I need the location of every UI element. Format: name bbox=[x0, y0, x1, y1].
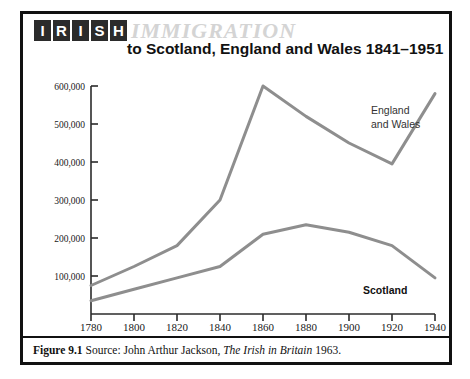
caption-year: 1963. bbox=[312, 344, 341, 356]
x-axis-ticks bbox=[91, 314, 435, 321]
plot-area: 600,000 500,000 400,000 300,000 200,000 … bbox=[23, 66, 449, 332]
caption-source-prefix: Source: John Arthur Jackson, bbox=[83, 344, 224, 356]
y-tick-label: 600,000 bbox=[54, 82, 85, 92]
line-chart-svg: 600,000 500,000 400,000 300,000 200,000 … bbox=[23, 66, 449, 332]
y-tick-label: 200,000 bbox=[54, 234, 85, 244]
caption-bar: Figure 9.1 Source: John Arthur Jackson, … bbox=[23, 338, 449, 362]
caption-figure-number: Figure 9.1 bbox=[33, 344, 83, 356]
figure-caption: Figure 9.1 Source: John Arthur Jackson, … bbox=[23, 344, 341, 356]
series-label-line: England bbox=[371, 104, 410, 116]
x-tick-label: 1780 bbox=[80, 321, 103, 332]
chart-subtitle: to Scotland, England and Wales 1841–1951 bbox=[127, 40, 443, 58]
series-annotation-england-and-wales: England and Wales bbox=[371, 104, 420, 130]
x-tick-label: 1800 bbox=[123, 321, 146, 332]
x-axis-labels: 1780 1800 1820 1840 1860 1880 1900 1920 … bbox=[80, 321, 447, 332]
y-tick-label: 300,000 bbox=[54, 196, 85, 206]
x-tick-label: 1880 bbox=[295, 321, 318, 332]
series-annotation-scotland: Scotland bbox=[363, 284, 407, 296]
y-axis-ticks bbox=[91, 86, 98, 276]
wordmark-letter-tile: I bbox=[34, 20, 51, 41]
y-axis-labels: 600,000 500,000 400,000 300,000 200,000 … bbox=[54, 82, 85, 282]
wordmark-letter-tile: R bbox=[53, 20, 70, 41]
y-tick-label: 500,000 bbox=[54, 120, 85, 130]
x-tick-label: 1900 bbox=[338, 321, 361, 332]
y-tick-label: 100,000 bbox=[54, 272, 85, 282]
title-block: I R I S H IMMIGRATION to Scotland, Engla… bbox=[23, 14, 449, 66]
series-label-line: and Wales bbox=[371, 118, 420, 130]
x-tick-label: 1920 bbox=[381, 321, 404, 332]
x-tick-label: 1860 bbox=[252, 321, 275, 332]
wordmark-letter-tile: H bbox=[110, 20, 127, 41]
x-tick-label: 1820 bbox=[166, 321, 189, 332]
figure-container: I R I S H IMMIGRATION to Scotland, Engla… bbox=[20, 11, 452, 365]
wordmark-letter-tile: I bbox=[72, 20, 89, 41]
irish-wordmark: I R I S H bbox=[34, 20, 127, 41]
wordmark-letter-tile: S bbox=[91, 20, 108, 41]
x-tick-label: 1840 bbox=[209, 321, 232, 332]
caption-work-title: The Irish in Britain bbox=[223, 344, 312, 356]
x-tick-label: 1940 bbox=[424, 321, 447, 332]
y-tick-label: 400,000 bbox=[54, 158, 85, 168]
series-label-line: Scotland bbox=[363, 284, 407, 296]
